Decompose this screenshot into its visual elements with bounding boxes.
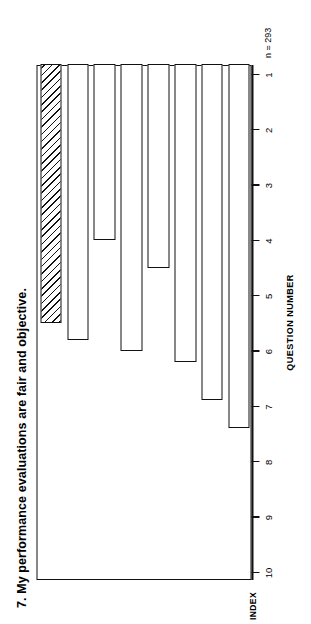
axis-tick-label-7: 7: [262, 396, 273, 418]
bar-row: [67, 64, 89, 579]
bar-row: [40, 64, 62, 579]
axis-tick-label-8: 8: [262, 451, 273, 473]
bar-7: [67, 64, 89, 340]
axis-tick: [251, 129, 259, 130]
axis-tick-label-9: 9: [262, 507, 273, 529]
value-axis-title: INDEX: [247, 592, 257, 620]
axis-tick-label-6: 6: [262, 341, 273, 363]
bar-row: [201, 64, 223, 579]
axis-tick-label-3: 3: [262, 175, 273, 197]
axis-tick: [251, 350, 259, 351]
value-axis-line: [251, 65, 253, 580]
rotated-figure-stage: 7. My performance evaluations are fair a…: [0, 0, 311, 624]
bar-row: [147, 64, 169, 579]
axis-tick-label-2: 2: [262, 119, 273, 141]
value-axis: 10987654321: [251, 65, 252, 580]
axis-tick-label-5: 5: [262, 285, 273, 307]
bar-composite-satisfaction: [40, 64, 62, 323]
bar-row: [228, 64, 250, 579]
axis-tick: [251, 74, 259, 75]
bar-3: [174, 64, 196, 362]
bar-2: [201, 64, 223, 400]
bar-6: [93, 64, 115, 240]
axis-tick: [251, 295, 259, 296]
bar-1: [228, 64, 250, 428]
sample-size-note: n = 293: [262, 28, 272, 58]
bar-4: [147, 64, 169, 268]
bar-5: [120, 64, 142, 351]
axis-tick: [251, 516, 259, 517]
bar-series: [37, 66, 250, 579]
axis-tick: [251, 240, 259, 241]
axis-tick: [251, 406, 259, 407]
bar-row: [93, 64, 115, 579]
category-axis-title: QUESTION NUMBER: [284, 65, 294, 580]
axis-tick: [251, 461, 259, 462]
chart-title: 7. My performance evaluations are fair a…: [14, 288, 28, 608]
axis-tick-label-10: 10: [262, 562, 273, 584]
axis-tick: [251, 572, 259, 573]
axis-tick-label-4: 4: [262, 230, 273, 252]
bar-row: [174, 64, 196, 579]
bar-row: [120, 64, 142, 579]
plot-area: [36, 65, 251, 580]
axis-tick-label-1: 1: [262, 64, 273, 86]
axis-tick: [251, 184, 259, 185]
bar-chart-figure: 7. My performance evaluations are fair a…: [0, 0, 311, 624]
